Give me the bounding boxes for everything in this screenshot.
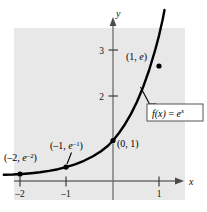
point-marker-origin: [110, 138, 115, 143]
x-axis-label: x: [188, 176, 194, 187]
callout-exponent: x: [180, 107, 184, 114]
y-tick-label-two: 2: [99, 92, 104, 102]
point-marker-one: [156, 63, 161, 68]
x-tick-label-neg2: –2: [14, 189, 25, 199]
point-neg2-suffix: ): [34, 152, 37, 164]
point-neg1-suffix: ): [80, 140, 83, 152]
point-one-prefix: (1,: [126, 51, 137, 63]
point-neg1-prefix: (–1,: [50, 140, 66, 152]
y-tick-label-three: 3: [99, 46, 104, 56]
y-axis-label: y: [115, 8, 121, 19]
x-tick-label-neg1: –1: [60, 189, 71, 199]
point-marker-neg1: [63, 165, 68, 170]
exponential-function-figure: x y –2 –1 1 3 2 (–2, e–: [0, 0, 207, 212]
svg-text:(1, e): (1, e): [126, 51, 147, 63]
point-neg1-exponent: –1: [72, 140, 80, 147]
point-one-suffix: ): [144, 51, 147, 63]
callout-fx: f(x): [152, 108, 167, 120]
x-tick-label-one: 1: [157, 189, 162, 199]
point-neg2-prefix: (–2,: [4, 152, 20, 164]
point-label-origin: (0, 1): [117, 138, 139, 150]
point-label-one: (1, e): [126, 51, 147, 63]
callout-text: f(x) = ex: [152, 107, 184, 120]
point-marker-neg2: [17, 171, 22, 176]
